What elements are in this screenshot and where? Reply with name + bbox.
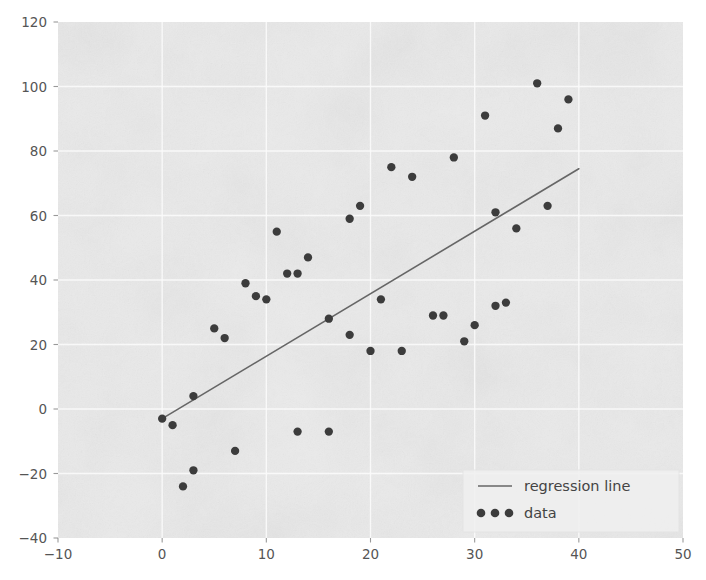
tick-label-x: 20	[362, 546, 379, 562]
data-point	[356, 202, 364, 210]
y-axis-ticks	[54, 22, 59, 538]
data-point	[491, 302, 499, 310]
tick-label-x: 10	[258, 546, 275, 562]
data-point	[325, 315, 333, 323]
x-axis-tick-labels: −1001020304050	[44, 546, 692, 562]
data-point	[439, 311, 447, 319]
legend-label-data: data	[524, 505, 557, 521]
data-point	[189, 392, 197, 400]
data-point	[293, 269, 301, 277]
tick-label-y: 20	[30, 337, 47, 353]
data-point	[366, 347, 374, 355]
tick-label-x: 30	[466, 546, 483, 562]
data-point	[158, 415, 166, 423]
data-point	[231, 447, 239, 455]
legend-data-marker	[477, 509, 514, 518]
data-point	[241, 279, 249, 287]
legend-label-regression-line: regression line	[524, 478, 630, 494]
data-point	[252, 292, 260, 300]
chart-canvas: −1001020304050 −40−20020406080100120 reg…	[0, 0, 706, 580]
scatter-plot-figure: −1001020304050 −40−20020406080100120 reg…	[0, 0, 706, 580]
tick-label-y: −20	[19, 466, 48, 482]
data-point	[481, 111, 489, 119]
data-point	[189, 466, 197, 474]
x-axis-ticks	[58, 538, 683, 543]
data-point	[554, 124, 562, 132]
data-point	[325, 427, 333, 435]
tick-label-y: 120	[21, 14, 47, 30]
data-point	[346, 331, 354, 339]
tick-label-y: 80	[30, 143, 47, 159]
data-point	[502, 298, 510, 306]
tick-label-y: 40	[30, 272, 47, 288]
data-point	[408, 173, 416, 181]
data-point	[512, 224, 520, 232]
tick-label-x: 0	[158, 546, 167, 562]
data-point	[377, 295, 385, 303]
data-point	[262, 295, 270, 303]
data-point	[221, 334, 229, 342]
tick-label-y: 100	[21, 79, 47, 95]
data-point	[491, 208, 499, 216]
tick-label-y: 0	[38, 401, 47, 417]
data-point	[210, 324, 218, 332]
data-point	[293, 427, 301, 435]
data-point	[168, 421, 176, 429]
data-point	[179, 482, 187, 490]
data-point	[543, 202, 551, 210]
data-point	[471, 321, 479, 329]
chart-legend: regression line data	[463, 470, 679, 532]
tick-label-x: 40	[570, 546, 587, 562]
tick-label-x: 50	[674, 546, 691, 562]
data-point	[398, 347, 406, 355]
data-point	[533, 79, 541, 87]
tick-label-y: −40	[19, 530, 48, 546]
data-point	[429, 311, 437, 319]
data-point	[564, 95, 572, 103]
data-point	[450, 153, 458, 161]
data-point	[387, 163, 395, 171]
data-point	[460, 337, 468, 345]
data-point	[283, 269, 291, 277]
tick-label-x: −10	[44, 546, 73, 562]
data-point	[304, 253, 312, 261]
data-point	[273, 227, 281, 235]
y-axis-tick-labels: −40−20020406080100120	[19, 14, 48, 546]
data-point	[346, 215, 354, 223]
tick-label-y: 60	[30, 208, 47, 224]
